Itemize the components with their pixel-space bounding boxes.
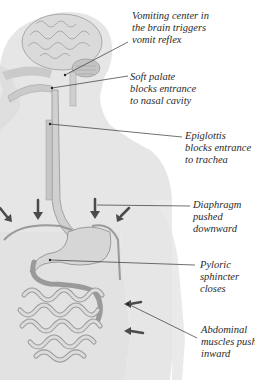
label-line: blocks entrance [130, 83, 196, 95]
label-diaphragm: Diaphragm pushed downward [193, 199, 241, 235]
label-line: Abdominal [201, 324, 255, 336]
label-line: downward [193, 223, 241, 235]
label-line: vomit reflex [132, 34, 209, 46]
label-line: closes [200, 283, 239, 295]
label-line: Vomiting center in [132, 10, 209, 22]
label-line: Epiglottis [185, 130, 251, 142]
label-line: inward [201, 348, 255, 360]
label-line: pushed [193, 211, 241, 223]
label-line: blocks entrance [185, 142, 251, 154]
label-line: muscles push [201, 336, 255, 348]
label-line: the brain triggers [132, 22, 209, 34]
label-line: sphincter [200, 271, 239, 283]
label-epiglottis: Epiglottis blocks entrance to trachea [185, 130, 251, 166]
label-line: to trachea [185, 154, 251, 166]
anatomy-illustration [0, 0, 255, 380]
label-line: Diaphragm [193, 199, 241, 211]
label-line: Pyloric [200, 259, 239, 271]
label-soft-palate: Soft palate blocks entrance to nasal cav… [130, 71, 196, 107]
label-line: to nasal cavity [130, 95, 196, 107]
label-pyloric-sphincter: Pyloric sphincter closes [200, 259, 239, 295]
label-line: Soft palate [130, 71, 196, 83]
label-vomiting-center: Vomiting center in the brain triggers vo… [132, 10, 209, 46]
label-abdominal-muscles: Abdominal muscles push inward [201, 324, 255, 360]
